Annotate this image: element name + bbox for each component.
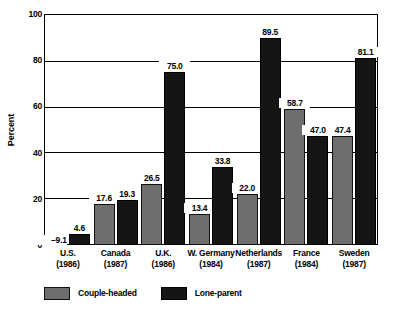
legend-swatch-couple-icon [44, 287, 70, 300]
legend-label: Couple-headed [78, 288, 137, 298]
bar-value-label: 19.3 [112, 189, 143, 199]
bar-couple-headed[interactable] [141, 184, 162, 245]
category-name: Sweden [339, 248, 370, 258]
bar-group: 26.575.0 [141, 14, 185, 245]
y-tick-label: 40 [4, 148, 42, 158]
category-name: Canada [101, 248, 131, 258]
bar-lone-parent[interactable] [212, 167, 233, 245]
bar-lone-parent[interactable] [69, 234, 90, 245]
bar-couple-headed[interactable] [189, 214, 210, 245]
y-tick-label: 80 [4, 55, 42, 65]
bar-lone-parent[interactable] [260, 38, 281, 245]
legend-label: Lone-parent [195, 288, 242, 298]
bar-value-label: 58.7 [279, 98, 310, 108]
bar-value-label: 89.5 [255, 27, 286, 37]
bars-layer: –9.14.617.619.326.575.013.433.822.089.55… [44, 14, 378, 245]
category-name: France [293, 248, 320, 258]
bar-value-label: 81.1 [350, 47, 381, 57]
bar-couple-headed[interactable] [94, 204, 115, 245]
bar-value-label: 75.0 [159, 61, 190, 71]
bar-lone-parent[interactable] [307, 136, 328, 245]
y-axis-tick-labels: 020406080100 [0, 14, 42, 245]
x-axis-category-label: Sweden(1987) [322, 248, 386, 270]
bar-couple-headed[interactable] [332, 136, 353, 245]
bar-group: –9.14.6 [46, 14, 90, 245]
bar-group: 17.619.3 [94, 14, 138, 245]
bar-group: 58.747.0 [284, 14, 328, 245]
bar-value-label: 22.0 [232, 183, 263, 193]
bar-group: 47.481.1 [332, 14, 376, 245]
bar-value-label: 47.4 [327, 125, 358, 135]
y-tick-label: 60 [4, 101, 42, 111]
bar-lone-parent[interactable] [164, 72, 185, 245]
bar-value-label: 33.8 [207, 156, 238, 166]
chart-legend: Couple-headedLone-parent [44, 284, 266, 302]
y-tick-label: 20 [4, 194, 42, 204]
category-name: U.S. [60, 248, 76, 258]
y-tick-label: 100 [4, 9, 42, 19]
bar-value-label: 13.4 [184, 203, 215, 213]
bar-chart: Percent 020406080100 –9.14.617.619.326.5… [0, 0, 393, 309]
bar-value-label: 26.5 [136, 173, 167, 183]
bar-lone-parent[interactable] [355, 58, 376, 245]
bar-value-label: 4.6 [64, 223, 95, 233]
legend-item-couple[interactable]: Couple-headed [44, 287, 137, 300]
legend-swatch-lone-icon [161, 287, 187, 300]
legend-item-lone[interactable]: Lone-parent [161, 287, 242, 300]
category-name: U.K. [155, 248, 171, 258]
category-year: (1987) [322, 259, 386, 270]
bar-value-label: –9.1 [34, 235, 67, 245]
bar-group: 22.089.5 [237, 14, 281, 245]
bar-lone-parent[interactable] [117, 200, 138, 245]
bar-couple-headed[interactable] [237, 194, 258, 245]
bar-group: 13.433.8 [189, 14, 233, 245]
x-axis-category-labels: U.S.(1986)Canada(1987)U.K.(1986)W. Germa… [44, 248, 378, 274]
